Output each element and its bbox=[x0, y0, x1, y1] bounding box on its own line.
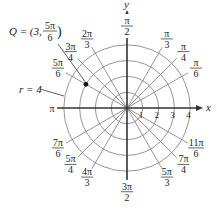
angle-label-num: π bbox=[194, 57, 199, 68]
angle-label-den: 6 bbox=[55, 148, 60, 159]
angle-label-num: π bbox=[181, 41, 186, 52]
angle-label-210: 7π6 bbox=[52, 137, 64, 159]
angle-label-num: 4π bbox=[82, 166, 92, 177]
radial-tick-1: 1 bbox=[139, 110, 144, 120]
point-q-label-suffix: ) bbox=[57, 24, 62, 40]
angle-label-num: 5π bbox=[162, 166, 172, 177]
angle-label-num: 5π bbox=[53, 57, 63, 68]
angle-label-330: 11π6 bbox=[188, 137, 204, 159]
angle-label-den: 4 bbox=[68, 164, 73, 175]
point-q-label-num: 5π bbox=[45, 20, 55, 31]
angle-label-den: 3 bbox=[164, 39, 169, 50]
circle-annotation-leader bbox=[40, 89, 64, 96]
angle-label-num: 5π bbox=[66, 153, 76, 164]
y-axis-label: y bbox=[123, 0, 129, 10]
angle-label-num: π bbox=[124, 15, 129, 26]
angle-label-den: 4 bbox=[181, 164, 186, 175]
angle-label-num: π bbox=[164, 28, 169, 39]
point-q-annotation: Q = (3, 5π 6 ) bbox=[9, 20, 88, 87]
x-axis-label: x bbox=[205, 101, 211, 113]
angle-label-90: π2 bbox=[121, 14, 133, 38]
angle-label-den: 6 bbox=[55, 68, 60, 79]
radial-tick-labels: 1234 bbox=[139, 110, 191, 120]
angle-label-135: 3π4 bbox=[65, 41, 77, 63]
point-q-label-prefix: Q = (3, bbox=[9, 25, 42, 38]
angle-label-num: 11π bbox=[189, 137, 204, 148]
radial-tick-3: 3 bbox=[170, 110, 175, 120]
angle-label-45: π4 bbox=[177, 41, 189, 63]
radial-tick-2: 2 bbox=[155, 110, 160, 120]
angle-label-den: 3 bbox=[164, 177, 169, 188]
angle-label-30: π6 bbox=[190, 57, 202, 79]
angle-label-den: 4 bbox=[181, 52, 186, 63]
point-q-marker bbox=[84, 82, 89, 87]
angle-label-den: 6 bbox=[194, 68, 199, 79]
angle-label-150: 5π6 bbox=[52, 57, 64, 79]
angle-label-240: 4π3 bbox=[81, 166, 93, 188]
angle-label-den: 2 bbox=[125, 26, 130, 37]
angle-label-num: 7π bbox=[178, 153, 188, 164]
circle-annotation-label: r = 4 bbox=[19, 83, 42, 95]
angle-label-225: 5π4 bbox=[65, 153, 77, 175]
angle-label-270: 3π2 bbox=[121, 181, 133, 203]
angle-label-num: 3π bbox=[122, 181, 132, 192]
angle-label-den: 6 bbox=[194, 148, 199, 159]
angle-label-60: π3 bbox=[161, 28, 173, 50]
angle-label-den: 3 bbox=[85, 39, 90, 50]
angle-label-text: π bbox=[49, 103, 54, 114]
angle-label-180: π bbox=[49, 103, 54, 114]
radial-tick-4: 4 bbox=[186, 110, 191, 120]
point-q-label-den: 6 bbox=[48, 32, 53, 43]
angle-label-num: 3π bbox=[66, 41, 76, 52]
polar-grid-canvas: x y 1234 π2π3π4π62π33π45π6π7π65π44π33π25… bbox=[0, 0, 217, 216]
angle-label-300: 5π3 bbox=[161, 166, 173, 188]
angle-label-num: 2π bbox=[82, 28, 92, 39]
polar-diagram: x y 1234 π2π3π4π62π33π45π6π7π65π44π33π25… bbox=[0, 0, 217, 216]
angle-label-num: 7π bbox=[53, 137, 63, 148]
angle-label-120: 2π3 bbox=[81, 28, 93, 50]
x-axis-arrow-icon bbox=[196, 105, 203, 111]
angle-label-315: 7π4 bbox=[177, 153, 189, 175]
angle-label-den: 2 bbox=[125, 192, 130, 203]
circle-annotation: r = 4 bbox=[19, 83, 64, 96]
angle-label-den: 3 bbox=[85, 177, 90, 188]
